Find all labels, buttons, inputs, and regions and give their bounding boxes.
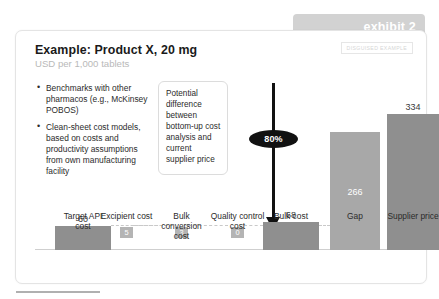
exhibit-card: Example: Product X, 20 mg USD per 1,000 …: [15, 30, 427, 284]
disguised-example-badge: DISGUISED EXAMPLE: [341, 42, 413, 54]
status-badge: 80%: [249, 130, 298, 148]
chart-xaxis-label: Excipient cost: [100, 211, 154, 221]
waterfall-chart: 6053068266334 Target API costExcipient c…: [35, 181, 420, 277]
chart-xaxis-label: Gap: [328, 211, 382, 221]
bar-value-label: 266: [330, 187, 380, 197]
callout-text: Potential difference between bottom-up c…: [166, 88, 222, 165]
list-item: Benchmarks with other pharmacos (e.g., M…: [37, 83, 149, 117]
chart-xaxis-label: Bulk cost: [264, 211, 318, 221]
bar-value-chip: 5: [120, 227, 133, 238]
bar-value-label: 334: [387, 102, 439, 112]
waterfall-connector: [319, 225, 330, 226]
slide-canvas: exhibit 2 Example: Product X, 20 mg USD …: [0, 0, 439, 299]
chart-xaxis-label: Quality control cost: [211, 211, 265, 231]
footer-rule: [16, 291, 100, 293]
chart-xaxis-label: Supplier price: [386, 211, 439, 221]
bullet-list: Benchmarks with other pharmacos (e.g., M…: [37, 83, 149, 183]
callout-box: Potential difference between bottom-up c…: [158, 81, 228, 175]
page-title: Example: Product X, 20 mg: [35, 43, 197, 57]
badge-label: 80%: [264, 134, 283, 144]
chart-bar: [263, 222, 319, 250]
list-item: Clean-sheet cost models, based on costs …: [37, 122, 149, 178]
chart-bar: [387, 114, 439, 250]
page-subtitle: USD per 1,000 tablets: [35, 58, 129, 69]
chart-xaxis-label: Bulk conversion cost: [155, 211, 209, 241]
bar-value-label: 5: [124, 229, 128, 236]
